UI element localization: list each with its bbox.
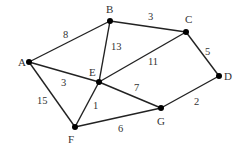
node-label-g: G [157, 115, 165, 127]
edge-g-d [161, 76, 219, 108]
edge-layer [29, 21, 219, 127]
edge-weight-c-d: 5 [205, 46, 210, 57]
edge-b-c [110, 21, 186, 32]
edge-weight-a-f: 15 [37, 95, 48, 106]
edge-weight-b-e: 13 [111, 41, 122, 52]
edge-weight-f-g: 6 [118, 123, 123, 134]
node-g [158, 105, 164, 111]
node-label-d: D [224, 70, 232, 82]
node-e [96, 79, 102, 85]
edge-c-e [99, 32, 186, 82]
edge-weight-e-f: 1 [93, 100, 98, 111]
edge-weight-e-g: 7 [134, 82, 139, 93]
edge-c-d [186, 32, 219, 76]
node-layer [26, 18, 222, 130]
node-label-a: A [18, 56, 26, 68]
node-f [72, 124, 78, 130]
edge-weight-g-d: 2 [194, 96, 199, 107]
edge-a-b [29, 21, 110, 62]
node-label-f: F [68, 133, 74, 145]
node-label-layer: ABCDEFG [18, 3, 232, 145]
node-label-b: B [106, 3, 113, 15]
edge-weight-c-e: 11 [148, 56, 158, 67]
weighted-graph-diagram: 83131153715126 ABCDEFG [0, 0, 241, 149]
node-b [107, 18, 113, 24]
edge-weight-a-b: 8 [63, 29, 68, 40]
node-label-e: E [89, 66, 96, 78]
node-a [26, 59, 32, 65]
edge-weight-b-c: 3 [148, 11, 153, 22]
edge-e-g [99, 82, 161, 108]
node-label-c: C [185, 13, 192, 25]
edge-a-f [29, 62, 75, 127]
edge-weight-a-e: 3 [61, 77, 66, 88]
node-d [216, 73, 222, 79]
node-c [183, 29, 189, 35]
edge-b-e [99, 21, 110, 82]
